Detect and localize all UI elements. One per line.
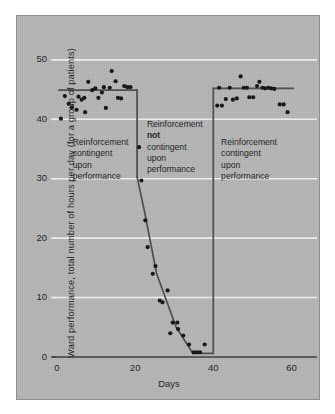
data-point [76,95,80,99]
data-point [247,95,251,99]
y-axis-title: Ward performance, total number of hours … [66,43,76,363]
data-point [165,288,169,292]
axes-group [51,60,317,357]
data-point [251,95,255,99]
data-point [151,272,155,276]
data-point [217,86,221,90]
data-point [215,103,219,107]
data-point [143,218,147,222]
data-point [102,85,106,89]
data-point [255,84,259,88]
data-point [146,245,150,249]
phase-1-label-line-2: contingent [73,148,129,159]
phase-3-label-line-1: Reinforcement [221,137,277,148]
x-tick-label-60: 60 [279,362,303,373]
phase-1-label-line-1: Reinforcement [73,137,129,148]
data-points-group [59,69,290,354]
y-tick-label-20: 20 [27,232,47,243]
phase-2-label-line-2: not [147,130,203,141]
data-point [278,102,282,106]
data-point [285,110,289,114]
data-point [239,74,243,78]
data-point [228,86,232,90]
data-point [181,334,185,338]
data-point [224,97,228,101]
phase-2-label-line-3: contingent [147,142,203,153]
phase-1-label: Reinforcementcontingentuponperformance [73,137,129,182]
chart-panel: Ward performance, total number of hours … [16,15,320,400]
phase-1-label-line-4: performance [73,171,129,182]
phase-2-label-line-4: upon [147,153,203,164]
x-tick-label-40: 40 [201,362,225,373]
data-point [272,87,276,91]
phase-2-label-line-5: performance [147,164,203,175]
data-point [160,300,164,304]
data-point [100,90,104,94]
data-point [168,331,172,335]
x-tick-label-0: 0 [45,362,69,373]
y-tick-label-10: 10 [27,291,47,302]
data-point [119,96,123,100]
data-point [104,106,108,110]
data-point [128,85,132,89]
data-point [176,327,180,331]
data-point [108,86,112,90]
scatter-plot-svg [17,16,320,400]
x-axis-title: Days [17,378,320,389]
data-point [245,86,249,90]
data-point [137,145,141,149]
phase-2-label: Reinforcementnotcontingentuponperformanc… [147,119,203,175]
data-point [86,80,90,84]
y-tick-label-0: 0 [27,351,47,362]
y-tick-label-40: 40 [27,113,47,124]
data-point [110,69,114,73]
data-point [171,320,175,324]
y-tick-label-30: 30 [27,172,47,183]
data-point [282,102,286,106]
phase-2-label-line-1: Reinforcement [147,119,203,130]
phase-3-label-line-2: contingent [221,148,277,159]
data-point [83,110,87,114]
data-point [96,96,100,100]
data-point [231,98,235,102]
data-point [139,178,143,182]
data-point [235,96,239,100]
data-point [59,117,63,121]
phase-1-label-line-3: upon [73,160,129,171]
data-point [82,96,86,100]
data-point [114,79,118,83]
trend-line-extinction-decline [137,177,193,354]
figure-container: Ward performance, total number of hours … [0,0,335,414]
data-point [257,80,261,84]
data-point [93,86,97,90]
data-point [175,320,179,324]
data-point [187,342,191,346]
phase-3-label-line-4: performance [221,171,277,182]
phase-3-label: Reinforcementcontingentuponperformance [221,137,277,182]
data-point [220,103,224,107]
data-point [153,264,157,268]
phase-3-label-line-3: upon [221,160,277,171]
data-point [198,350,202,354]
x-tick-label-20: 20 [123,362,147,373]
y-tick-label-50: 50 [27,53,47,64]
data-point [203,342,207,346]
